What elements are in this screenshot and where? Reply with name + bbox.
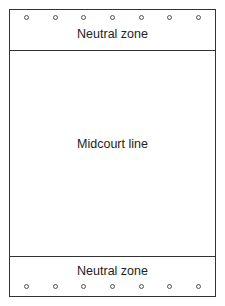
dot-icon <box>110 284 115 289</box>
bottom-dots <box>24 284 201 289</box>
top-zone-label: Neutral zone <box>10 27 215 41</box>
bottom-zone-label: Neutral zone <box>10 264 215 278</box>
dot-icon <box>24 284 29 289</box>
top-zone-divider <box>10 50 215 51</box>
dot-icon <box>139 15 144 20</box>
court-outline: Neutral zone Midcourt line Neutral zone <box>9 9 216 297</box>
dot-icon <box>196 284 201 289</box>
dot-icon <box>81 15 86 20</box>
dot-icon <box>53 284 58 289</box>
dot-icon <box>110 15 115 20</box>
dot-icon <box>139 284 144 289</box>
bottom-zone-divider <box>10 256 215 257</box>
dot-icon <box>24 15 29 20</box>
dot-icon <box>196 15 201 20</box>
dot-icon <box>167 15 172 20</box>
midcourt-label: Midcourt line <box>10 137 215 151</box>
dot-icon <box>81 284 86 289</box>
dot-icon <box>53 15 58 20</box>
top-dots <box>24 15 201 20</box>
dot-icon <box>167 284 172 289</box>
